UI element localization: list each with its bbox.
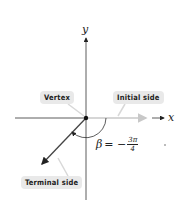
vertex-label: Vertex bbox=[40, 91, 74, 104]
terminal-side-ray bbox=[42, 118, 86, 164]
vertex-pointer bbox=[68, 104, 84, 116]
initial-side-label: Initial side bbox=[113, 91, 164, 104]
initial-pointer bbox=[118, 104, 125, 116]
angle-symbol: β bbox=[96, 138, 102, 151]
y-axis-label: y bbox=[82, 23, 88, 36]
angle-numerator: 3π bbox=[127, 136, 138, 145]
angle-equals: = − bbox=[104, 138, 126, 151]
angle-fraction: 3π 4 bbox=[127, 136, 138, 153]
angle-label: β = − 3π 4 bbox=[96, 136, 138, 153]
vertex-dot bbox=[84, 116, 88, 120]
angle-denominator: 4 bbox=[131, 145, 135, 153]
x-axis-label: x bbox=[168, 111, 174, 124]
terminal-side-label: Terminal side bbox=[21, 176, 82, 189]
terminal-pointer bbox=[58, 158, 68, 176]
